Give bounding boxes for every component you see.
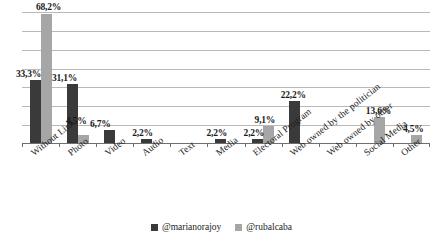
legend-square-marker-icon: [235, 224, 242, 231]
legend-item[interactable]: @marianorajoy: [151, 222, 221, 232]
bar-rubalcaba: [41, 14, 52, 143]
data-label: 6,7%: [90, 119, 111, 129]
x-axis-tick: [96, 143, 97, 147]
x-axis-tick: [429, 143, 430, 147]
bar-marianorajoy: [30, 80, 41, 143]
bar-group: [207, 12, 244, 143]
data-label: 2,2%: [207, 128, 228, 138]
data-label: 2,2%: [244, 128, 265, 138]
legend-square-marker-icon: [151, 224, 158, 231]
data-label: 68,2%: [36, 2, 61, 12]
x-axis-tick: [22, 143, 23, 147]
x-axis-tick: [319, 143, 320, 147]
data-label: 2,2%: [132, 128, 153, 138]
x-axis-tick-labels: Without LinkPhotoVideoAudioTextMediaElec…: [0, 148, 443, 206]
x-axis-tick: [59, 143, 60, 147]
legend-item[interactable]: @rubalcaba: [235, 222, 292, 232]
x-axis-tick: [133, 143, 134, 147]
data-label: 9,1%: [255, 115, 276, 125]
legend-label: @rubalcaba: [246, 222, 292, 232]
x-axis-tick: [356, 143, 357, 147]
chart-figure: 33,3%31,1%6,7%2,2%2,2%2,2%22,2%68,2%4,5%…: [0, 0, 443, 248]
x-axis-tick: [170, 143, 171, 147]
bar-marianorajoy: [67, 84, 78, 143]
legend-label: @marianorajoy: [162, 222, 221, 232]
x-axis-tick: [207, 143, 208, 147]
x-axis-tick: [393, 143, 394, 147]
data-label: 33,3%: [16, 69, 41, 79]
bar-group: [170, 12, 207, 143]
x-axis-tick: [245, 143, 246, 147]
data-label: 22,2%: [281, 90, 306, 100]
bar-group: [133, 12, 170, 143]
chart-legend: @marianorajoy@rubalcaba: [0, 222, 443, 232]
data-label: 31,1%: [52, 73, 77, 83]
x-axis-tick: [282, 143, 283, 147]
